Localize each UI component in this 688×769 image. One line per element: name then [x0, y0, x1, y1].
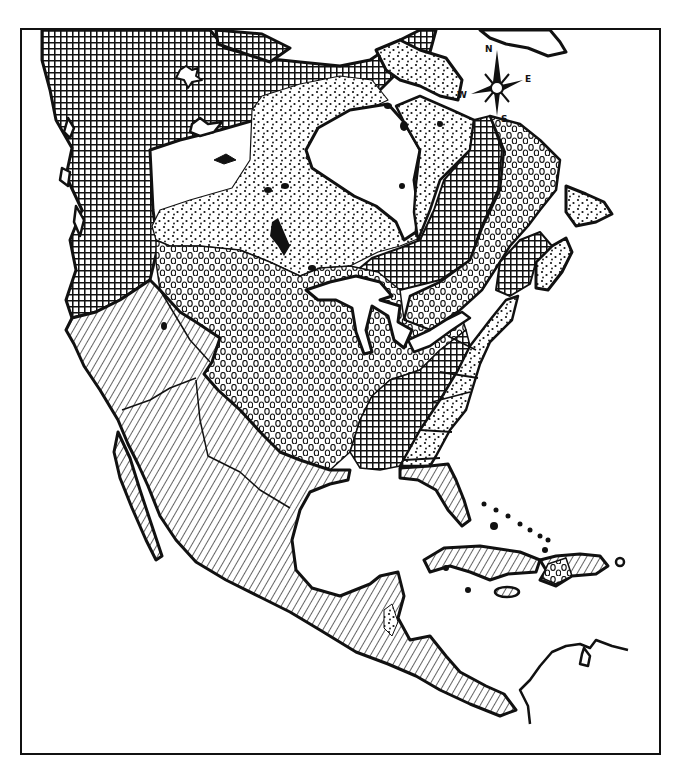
jamaica	[495, 587, 519, 597]
region-fine-dots-newfoundland	[566, 186, 612, 226]
region-diagonal-cuba	[424, 546, 540, 580]
great-slave-lake	[214, 154, 236, 164]
compass-west-label: W	[457, 90, 467, 100]
south-america-coastline	[520, 640, 628, 724]
arctic-island-baffin	[376, 40, 462, 100]
small-lake-3	[281, 183, 289, 189]
lake-maracaibo	[580, 648, 590, 666]
small-lake-5	[400, 121, 408, 131]
small-lake-4	[161, 322, 167, 330]
small-lake-7	[437, 121, 443, 127]
compass-rose: N E S W	[457, 44, 531, 124]
small-lake-8	[399, 183, 405, 189]
north-america-map: N E S W	[0, 0, 688, 769]
greenland-coast	[480, 30, 566, 56]
region-diagonal-florida	[400, 464, 470, 526]
small-lake	[308, 265, 316, 271]
compass-south-label: S	[501, 114, 507, 124]
puerto-rico	[616, 558, 624, 566]
small-lake-2	[264, 187, 272, 193]
small-lake-6	[384, 103, 392, 109]
compass-north-label: N	[485, 44, 493, 54]
compass-east-label: E	[525, 74, 531, 84]
